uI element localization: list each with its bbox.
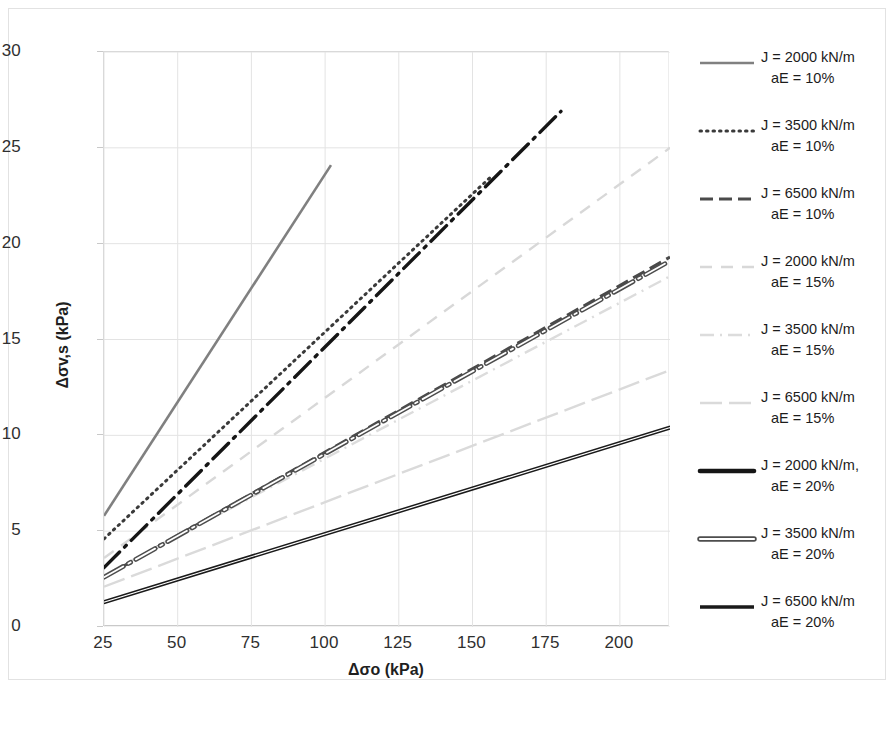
legend-label-line2: aE = 20% — [761, 544, 885, 565]
legend-item[interactable]: J = 3500 kN/maE = 15% — [699, 319, 885, 375]
y-tick-mark — [97, 434, 103, 435]
legend-label: J = 2000 kN/maE = 15% — [761, 251, 885, 293]
legend-label-line2: aE = 15% — [761, 340, 885, 361]
legend-label-line1: J = 2000 kN/m — [761, 49, 855, 65]
y-tick-label: 15 — [0, 329, 21, 349]
legend-item[interactable]: J = 6500 kN/maE = 10% — [699, 183, 885, 239]
plot-wrapper: Δσv,s (kPa) 051015202530 255075100125150… — [9, 9, 687, 681]
legend-label: J = 3500 kN/maE = 15% — [761, 319, 885, 361]
legend-label-line2: aE = 10% — [761, 68, 885, 89]
legend-label: J = 6500 kN/maE = 20% — [761, 591, 885, 633]
legend-line-sample — [699, 329, 755, 341]
y-tick-label: 5 — [0, 520, 21, 540]
x-tick-label: 175 — [515, 633, 575, 653]
figure-container: Δσv,s (kPa) 051015202530 255075100125150… — [8, 8, 886, 680]
y-tick-mark — [97, 626, 103, 627]
legend-line-sample — [699, 261, 755, 273]
x-tick-label: 200 — [589, 633, 649, 653]
x-tick-label: 150 — [441, 633, 501, 653]
y-tick-label: 25 — [0, 137, 21, 157]
legend-label-line2: aE = 10% — [761, 136, 885, 157]
legend-line-sample — [699, 397, 755, 409]
legend-label-line1: J = 6500 kN/m — [761, 389, 855, 405]
legend-label-line1: J = 6500 kN/m — [761, 185, 855, 201]
legend-label-line1: J = 3500 kN/m — [761, 321, 855, 337]
series-line — [104, 165, 331, 516]
x-tick-label: 50 — [147, 633, 207, 653]
legend-line-sample — [699, 601, 755, 613]
legend-label: J = 6500 kN/maE = 10% — [761, 183, 885, 225]
series-line — [104, 426, 670, 603]
legend-label: J = 2000 kN/m,aE = 20% — [761, 455, 885, 497]
y-tick-label: 30 — [0, 41, 21, 61]
data-series-layer — [104, 52, 670, 627]
plot-area — [103, 51, 669, 626]
legend-item[interactable]: J = 2000 kN/m,aE = 20% — [699, 455, 885, 511]
x-tick-label: 125 — [368, 633, 428, 653]
y-tick-mark — [97, 51, 103, 52]
chart-legend: J = 2000 kN/maE = 10%J = 3500 kN/maE = 1… — [699, 47, 885, 667]
legend-label-line2: aE = 15% — [761, 408, 885, 429]
legend-item[interactable]: J = 2000 kN/maE = 10% — [699, 47, 885, 103]
series-line — [104, 370, 670, 587]
legend-line-sample — [699, 57, 755, 69]
series-line — [104, 148, 670, 558]
legend-item[interactable]: J = 6500 kN/maE = 15% — [699, 387, 885, 443]
legend-line-sample — [699, 125, 755, 137]
y-tick-mark — [97, 339, 103, 340]
y-tick-mark — [97, 243, 103, 244]
legend-label: J = 6500 kN/maE = 15% — [761, 387, 885, 429]
x-tick-label: 25 — [73, 633, 133, 653]
legend-label: J = 3500 kN/maE = 10% — [761, 115, 885, 157]
legend-line-sample — [699, 193, 755, 205]
y-tick-label: 10 — [0, 424, 21, 444]
legend-line-sample — [699, 533, 755, 545]
legend-label-line2: aE = 10% — [761, 204, 885, 225]
legend-label-line1: J = 3500 kN/m — [761, 117, 855, 133]
series-line — [104, 175, 493, 539]
series-line — [104, 261, 670, 577]
y-tick-mark — [97, 530, 103, 531]
legend-label: J = 3500 kN/maE = 20% — [761, 523, 885, 565]
y-tick-mark — [97, 147, 103, 148]
legend-label-line2: aE = 15% — [761, 272, 885, 293]
legend-label-line1: J = 2000 kN/m — [761, 253, 855, 269]
legend-item[interactable]: J = 6500 kN/maE = 20% — [699, 591, 885, 647]
y-tick-label: 0 — [0, 616, 21, 636]
legend-item[interactable]: J = 3500 kN/maE = 20% — [699, 523, 885, 579]
legend-label-line2: aE = 20% — [761, 476, 885, 497]
legend-label: J = 2000 kN/maE = 10% — [761, 47, 885, 89]
legend-label-line2: aE = 20% — [761, 612, 885, 633]
legend-label-line1: J = 3500 kN/m — [761, 525, 855, 541]
x-tick-label: 75 — [220, 633, 280, 653]
legend-label-line1: J = 2000 kN/m, — [761, 457, 859, 473]
legend-line-sample — [699, 465, 755, 477]
y-axis-label: Δσv,s (kPa) — [54, 301, 72, 388]
x-axis-label: Δσo (kPa) — [103, 661, 669, 679]
legend-item[interactable]: J = 3500 kN/maE = 10% — [699, 115, 885, 171]
legend-label-line1: J = 6500 kN/m — [761, 593, 855, 609]
x-tick-label: 100 — [294, 633, 354, 653]
y-tick-label: 20 — [0, 233, 21, 253]
legend-item[interactable]: J = 2000 kN/maE = 15% — [699, 251, 885, 307]
